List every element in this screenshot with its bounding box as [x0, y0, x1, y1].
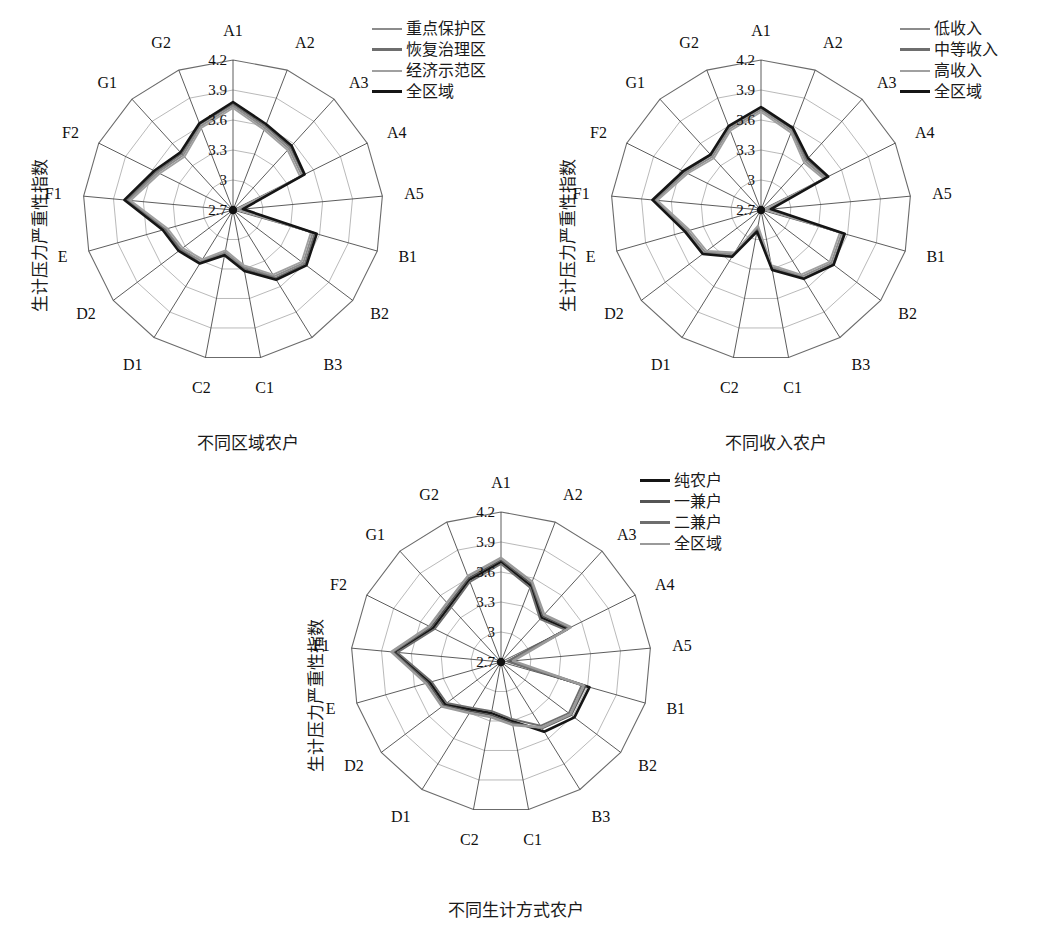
category-label: A5	[672, 637, 692, 654]
category-label: D2	[604, 305, 624, 322]
category-label: A4	[915, 124, 935, 141]
legend-item-label: 高收入	[934, 61, 982, 81]
category-label: D2	[76, 305, 96, 322]
category-label: F2	[330, 576, 347, 593]
legend-line-icon	[900, 70, 930, 72]
axis-spoke	[233, 210, 353, 300]
radial-tick-label: 3.6	[476, 564, 495, 580]
legend-item[interactable]: 重点保护区	[372, 18, 486, 39]
axis-spoke	[501, 662, 621, 752]
series-polygon	[653, 108, 843, 278]
category-label: G1	[98, 74, 118, 91]
category-label: C2	[720, 379, 739, 396]
legend-item[interactable]: 全区域	[900, 81, 998, 102]
radial-tick-label: 3.9	[736, 82, 755, 98]
category-label: G1	[626, 74, 646, 91]
category-label: C2	[460, 831, 479, 848]
category-label: G2	[151, 34, 171, 51]
category-label: B3	[592, 808, 611, 825]
category-label: F2	[590, 124, 607, 141]
category-label: G2	[679, 34, 699, 51]
legend-line-icon	[372, 48, 402, 50]
axis-spoke	[641, 210, 761, 300]
radar-series-group	[124, 102, 316, 280]
legend: 低收入中等收入高收入全区域	[900, 18, 998, 102]
legend-item[interactable]: 经济示范区	[372, 60, 486, 81]
legend-line-icon	[640, 500, 670, 502]
legend-item[interactable]: 全区域	[640, 533, 722, 554]
radar-series-group	[652, 107, 844, 279]
series-polygon	[657, 112, 839, 275]
radial-tick-label: 4.2	[476, 504, 495, 520]
legend-item-label: 全区域	[406, 82, 454, 102]
category-label: B3	[324, 356, 343, 373]
radial-tick-label: 2.7	[208, 202, 227, 218]
category-label: A3	[617, 526, 637, 543]
category-label: B1	[398, 248, 417, 265]
legend-line-icon	[640, 521, 670, 523]
category-label: C1	[783, 379, 802, 396]
legend-item-label: 经济示范区	[406, 61, 486, 81]
legend-line-icon	[372, 70, 402, 72]
radial-tick-label: 3.6	[736, 112, 755, 128]
legend-item-label: 二兼户	[674, 513, 722, 533]
radial-tick-label: 2.7	[736, 202, 755, 218]
radial-tick-label: 4.2	[208, 52, 227, 68]
radial-tick-label: 4.2	[736, 52, 755, 68]
radial-tick-label: 3.3	[476, 594, 495, 610]
legend-item[interactable]: 高收入	[900, 60, 998, 81]
category-label: A1	[751, 22, 771, 39]
category-label: E	[326, 700, 336, 717]
radial-tick-label: 3.3	[208, 142, 227, 158]
center-dot	[229, 206, 237, 214]
series-polygon	[652, 107, 844, 279]
legend-item-label: 中等收入	[934, 40, 998, 60]
category-label: G2	[419, 486, 439, 503]
series-polygon	[128, 106, 312, 276]
legend-line-icon	[372, 90, 402, 93]
category-label: D2	[344, 757, 364, 774]
radial-tick-label: 3.3	[736, 142, 755, 158]
radar-panel-livelihood: 生计压力严重性指数 2.733.33.63.94.2A1A2A3A4A5B1B2…	[268, 462, 828, 927]
radial-tick-label: 3	[748, 172, 756, 188]
series-polygon	[655, 110, 841, 276]
series-polygon	[130, 108, 310, 275]
legend-item-label: 一兼户	[674, 492, 722, 512]
category-label: A2	[823, 34, 843, 51]
category-label: A1	[491, 474, 511, 491]
legend-item[interactable]: 二兼户	[640, 512, 722, 533]
axis-spoke	[501, 551, 602, 662]
legend: 纯农户一兼户二兼户全区域	[640, 470, 722, 554]
category-label: A4	[387, 124, 407, 141]
category-label: C1	[255, 379, 274, 396]
legend-item[interactable]: 全区域	[372, 81, 486, 102]
category-label: A3	[877, 74, 897, 91]
radial-tick-label: 3.6	[208, 112, 227, 128]
legend-item[interactable]: 中等收入	[900, 39, 998, 60]
category-label: B2	[898, 305, 917, 322]
category-label: A2	[563, 486, 583, 503]
radial-tick-label: 3	[488, 624, 496, 640]
category-label: A2	[295, 34, 315, 51]
legend-item[interactable]: 低收入	[900, 18, 998, 39]
legend-line-icon	[900, 28, 930, 30]
legend-item[interactable]: 纯农户	[640, 470, 722, 491]
legend-line-icon	[900, 90, 930, 93]
legend-item[interactable]: 一兼户	[640, 491, 722, 512]
legend-line-icon	[640, 543, 670, 545]
axis-spoke	[761, 210, 881, 300]
radar-panel-region: 生计压力严重性指数 2.733.33.63.94.2A1A2A3A4A5B1B2…	[0, 10, 520, 460]
legend-item-label: 恢复治理区	[406, 40, 486, 60]
category-label: A1	[223, 22, 243, 39]
legend-item[interactable]: 恢复治理区	[372, 39, 486, 60]
category-label: B2	[638, 757, 657, 774]
y-axis-title: 生计压力严重性指数	[26, 135, 51, 335]
legend-line-icon	[640, 479, 670, 482]
category-label: B1	[926, 248, 945, 265]
legend-item-label: 全区域	[934, 82, 982, 102]
legend-line-icon	[372, 28, 402, 30]
category-label: D1	[391, 808, 411, 825]
category-label: D1	[651, 356, 671, 373]
x-axis-title: 不同区域农户	[48, 429, 448, 454]
category-label: F2	[62, 124, 79, 141]
